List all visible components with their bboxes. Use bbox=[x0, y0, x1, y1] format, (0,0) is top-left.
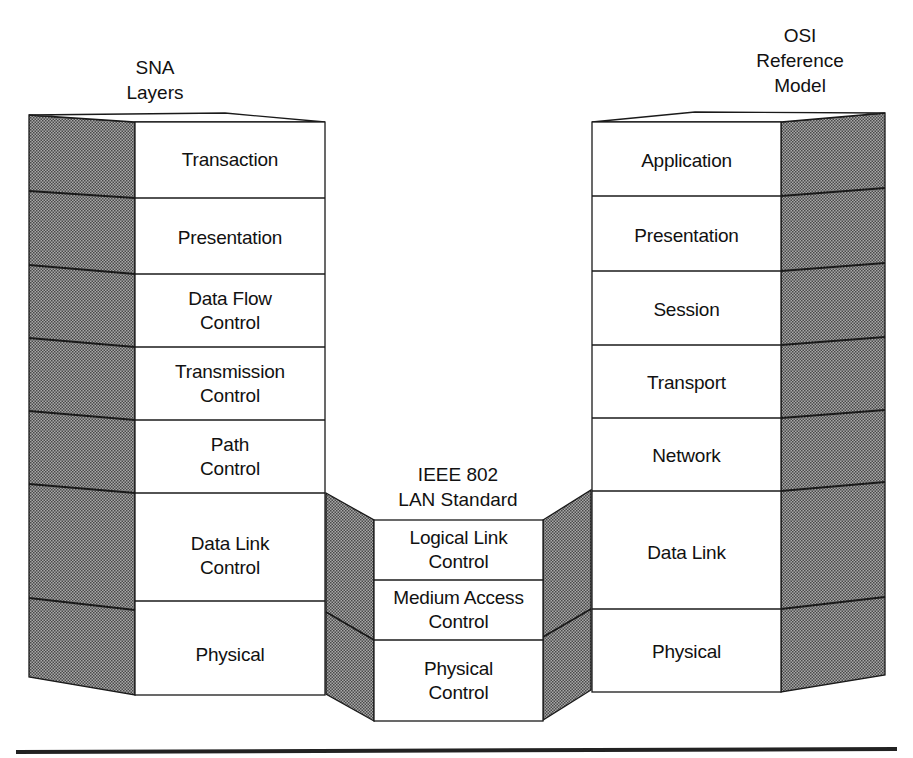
osi-layer-application: Application bbox=[592, 149, 781, 173]
sna-layer-transaction: Transaction bbox=[135, 148, 325, 172]
osi-layer-network: Network bbox=[592, 444, 781, 468]
ieee-right-side-face bbox=[543, 490, 591, 720]
osi-layer-transport: Transport bbox=[592, 371, 781, 395]
ieee-layer-physical-control: Physical Control bbox=[374, 657, 543, 705]
bottom-rule bbox=[16, 749, 897, 752]
ieee-left-side-face bbox=[326, 493, 374, 721]
osi-layer-physical: Physical bbox=[592, 640, 781, 664]
sna-layer-transmission-control: Transmission Control bbox=[135, 360, 325, 408]
ieee-layer-logical-link-control: Logical Link Control bbox=[374, 526, 543, 574]
sna-front-face bbox=[135, 122, 325, 695]
osi-title-line2: Reference bbox=[740, 48, 860, 73]
osi-layer-data-link: Data Link bbox=[592, 541, 781, 565]
sna-layer-path-control: Path Control bbox=[135, 433, 325, 481]
osi-layer-presentation: Presentation bbox=[592, 224, 781, 248]
ieee-layer-medium-access-control: Medium Access Control bbox=[370, 586, 547, 634]
sna-layer-physical: Physical bbox=[135, 643, 325, 667]
ieee-title-line2: LAN Standard bbox=[378, 487, 538, 512]
osi-front-face bbox=[592, 122, 781, 692]
sna-layer-data-link-control: Data Link Control bbox=[135, 532, 325, 580]
ieee-title: IEEE 802 LAN Standard bbox=[378, 462, 538, 512]
osi-title-line3: Model bbox=[740, 73, 860, 98]
osi-layer-session: Session bbox=[592, 298, 781, 322]
sna-title-line2: Layers bbox=[95, 80, 215, 105]
osi-title-line1: OSI bbox=[740, 23, 860, 48]
osi-side-face bbox=[781, 113, 885, 692]
sna-title-line1: SNA bbox=[95, 55, 215, 80]
sna-layer-data-flow-control: Data Flow Control bbox=[135, 287, 325, 335]
sna-title: SNA Layers bbox=[95, 55, 215, 105]
sna-layer-presentation: Presentation bbox=[135, 226, 325, 250]
osi-stack bbox=[592, 112, 885, 692]
ieee-title-line1: IEEE 802 bbox=[378, 462, 538, 487]
osi-title: OSI Reference Model bbox=[740, 23, 860, 98]
